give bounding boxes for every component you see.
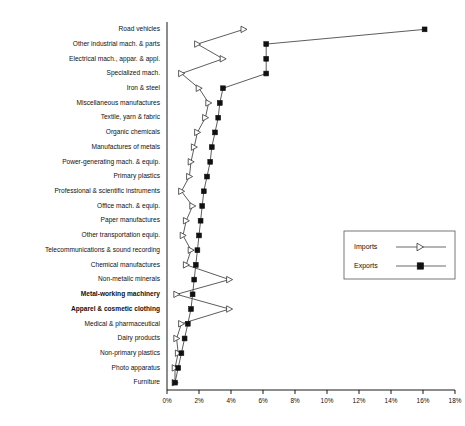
data-point-exports bbox=[264, 56, 269, 61]
legend-box bbox=[344, 231, 455, 279]
data-point-exports bbox=[200, 204, 205, 209]
data-point-exports bbox=[192, 277, 197, 282]
data-point-exports bbox=[182, 336, 187, 341]
category-label: Non-metalic minerals bbox=[98, 275, 161, 282]
data-point-exports bbox=[197, 233, 202, 238]
data-point-exports bbox=[264, 42, 269, 47]
data-point-imports bbox=[183, 218, 189, 224]
series-line-exports bbox=[175, 29, 425, 382]
data-point-imports bbox=[227, 306, 233, 312]
data-point-exports bbox=[179, 351, 184, 356]
data-point-exports bbox=[221, 86, 226, 91]
x-tick-label: 8% bbox=[290, 397, 300, 404]
data-point-imports bbox=[183, 262, 189, 268]
category-label: Professional & scientific instruments bbox=[54, 187, 160, 194]
x-tick-label: 2% bbox=[194, 397, 204, 404]
data-point-imports bbox=[179, 188, 185, 194]
category-label: Electrical mach., appar. & appl. bbox=[69, 55, 160, 63]
x-tick-label: 14% bbox=[385, 397, 398, 404]
data-point-exports bbox=[190, 292, 195, 297]
category-label: Power-generating mach. & equip. bbox=[62, 158, 160, 166]
category-label: Medical & pharmaceutical bbox=[85, 320, 161, 328]
data-point-imports bbox=[206, 100, 212, 106]
x-tick-label: 0% bbox=[162, 397, 172, 404]
x-tick-label: 4% bbox=[226, 397, 236, 404]
category-label: Specialized mach. bbox=[106, 69, 160, 77]
series-lines bbox=[175, 29, 425, 382]
category-label: Other transportation equip. bbox=[82, 231, 161, 239]
category-label: Office mach. & equip. bbox=[97, 202, 160, 210]
data-point-exports bbox=[198, 218, 203, 223]
data-point-exports bbox=[216, 115, 221, 120]
category-label: Metal-working machinery bbox=[81, 290, 160, 298]
category-label: Road vehicles bbox=[119, 25, 161, 32]
data-point-imports bbox=[227, 276, 233, 282]
category-label: Organic chemicals bbox=[106, 128, 161, 136]
series-line-imports bbox=[175, 29, 244, 382]
data-point-imports bbox=[188, 247, 194, 253]
x-tick-label: 18% bbox=[449, 397, 462, 404]
category-label: Furniture bbox=[134, 378, 161, 385]
category-label: Apparel & cosmetic clothing bbox=[71, 305, 160, 313]
category-label: Paper manufactures bbox=[101, 216, 161, 224]
x-tick-label: 16% bbox=[417, 397, 430, 404]
data-point-exports bbox=[176, 366, 181, 371]
data-point-imports bbox=[195, 41, 201, 47]
legend-swatch-imports-marker bbox=[417, 243, 424, 251]
data-point-imports bbox=[179, 321, 185, 327]
category-label: Dairy products bbox=[117, 334, 160, 342]
data-point-exports bbox=[201, 189, 206, 194]
data-point-exports bbox=[213, 130, 218, 135]
x-tick-label: 6% bbox=[258, 397, 268, 404]
legend-label-imports: Imports bbox=[354, 243, 378, 251]
data-point-imports bbox=[220, 56, 226, 62]
chart-legend: Imports Exports bbox=[344, 231, 455, 279]
data-point-exports bbox=[217, 101, 222, 106]
category-label: Non-primary plastics bbox=[100, 349, 161, 357]
category-label: Iron & steel bbox=[127, 84, 161, 91]
data-point-exports bbox=[193, 262, 198, 267]
data-point-exports bbox=[264, 71, 269, 76]
category-label: Manufactures of metals bbox=[91, 143, 160, 150]
data-point-imports bbox=[241, 26, 247, 32]
data-point-exports bbox=[209, 145, 214, 150]
axes bbox=[167, 22, 455, 390]
x-tick-label: 12% bbox=[353, 397, 366, 404]
data-point-imports bbox=[174, 291, 180, 297]
category-label: Primary plastics bbox=[113, 172, 160, 180]
legend-label-exports: Exports bbox=[354, 262, 378, 270]
category-label: Chemical manufactures bbox=[91, 261, 161, 268]
trade-share-chart: Road vehiclesOther industrial mach. & pa… bbox=[0, 0, 465, 426]
series-markers bbox=[172, 26, 427, 386]
category-label: Other industrial mach. & parts bbox=[73, 40, 161, 48]
data-point-imports bbox=[196, 85, 202, 91]
data-point-exports bbox=[189, 307, 194, 312]
category-label: Miscellaneous manufactures bbox=[76, 99, 160, 106]
category-label: Textile, yarn & fabric bbox=[101, 113, 161, 121]
data-point-exports bbox=[195, 248, 200, 253]
data-point-imports bbox=[190, 203, 196, 209]
data-point-exports bbox=[205, 174, 210, 179]
category-label: Telecommunications & sound recording bbox=[45, 246, 160, 254]
x-axis-ticks: 0%2%4%6%8%10%12%14%16%18% bbox=[162, 390, 461, 404]
data-point-exports bbox=[208, 159, 213, 164]
x-tick-label: 10% bbox=[321, 397, 334, 404]
category-label: Photo apparatus bbox=[112, 364, 161, 372]
data-point-exports bbox=[422, 27, 427, 32]
data-point-exports bbox=[173, 380, 178, 385]
legend-swatch-exports-marker bbox=[417, 263, 423, 269]
data-point-exports bbox=[185, 321, 190, 326]
chart-container: Road vehiclesOther industrial mach. & pa… bbox=[0, 0, 465, 426]
category-axis-labels: Road vehiclesOther industrial mach. & pa… bbox=[45, 25, 161, 385]
data-point-imports bbox=[195, 129, 201, 135]
